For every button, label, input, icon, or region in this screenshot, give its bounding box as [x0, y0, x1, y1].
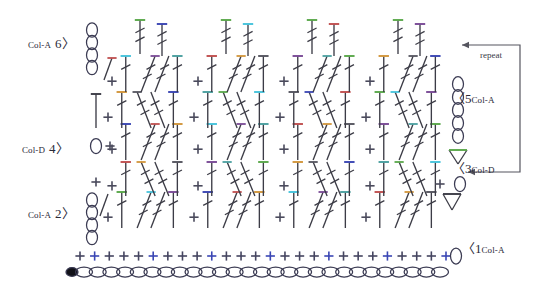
stitch-post — [203, 92, 213, 128]
stitch-lean — [327, 56, 341, 92]
stitch-row — [103, 92, 436, 128]
stitch-post — [430, 162, 440, 196]
chain-stitch — [171, 267, 188, 277]
stitch-post — [293, 162, 303, 196]
stitch-single-crochet — [163, 251, 172, 260]
stitch-post — [254, 192, 264, 228]
stitch-symbol-layer — [75, 20, 467, 264]
crochet-chart-root: Col-A 6〉 Col-D 4〉 Col-A 2〉 〈5Col-A 〈3Col… — [0, 0, 539, 284]
chain-stitch — [322, 267, 339, 277]
stitch-post — [254, 92, 264, 128]
stitch-lean — [327, 162, 341, 196]
stitch-single-crochet — [435, 179, 444, 188]
stitch-lean — [104, 58, 117, 80]
stitch-row — [107, 56, 440, 92]
stitch-single-crochet — [365, 145, 374, 154]
stitch-post — [379, 124, 389, 160]
stitch-row — [103, 192, 436, 228]
stitch-row-top-caps — [135, 20, 425, 56]
stitch-lean — [241, 162, 255, 196]
stitch-post — [379, 56, 389, 92]
stitch-lean — [151, 92, 165, 128]
stitch-post — [293, 124, 303, 160]
chain-stitch — [240, 267, 257, 277]
stitch-lean — [241, 124, 255, 160]
stitch-lean — [309, 162, 328, 196]
stitch-lean — [100, 194, 108, 216]
chain-stitch — [212, 267, 229, 277]
stitch-post — [344, 124, 354, 160]
stitch-single-crochet — [193, 181, 202, 190]
stitch-single-crochet — [279, 145, 288, 154]
stitch-single-crochet — [207, 251, 216, 260]
stitch-single-crochet — [427, 251, 436, 260]
chain-stitch — [336, 267, 353, 277]
row-label-1: 〈1Col-A — [462, 238, 505, 257]
stitch-lean — [133, 92, 152, 128]
chain-stitch — [89, 267, 106, 277]
row-label-1-chevron: 〈 — [462, 241, 475, 256]
stitch-single-crochet — [279, 181, 288, 190]
stitch-single-crochet — [251, 251, 260, 260]
stitch-lean — [413, 56, 427, 92]
stitch-post — [157, 24, 167, 56]
stitch-single-crochet — [339, 251, 348, 260]
stitch-single-crochet — [397, 251, 406, 260]
stitch-lean — [237, 92, 251, 128]
stitch-post — [289, 92, 299, 128]
chain-stitch — [185, 267, 202, 277]
stitch-lean — [155, 162, 169, 196]
stitch-lean — [241, 56, 255, 92]
stitch-row — [107, 124, 440, 160]
stitch-single-crochet — [189, 113, 198, 122]
row-label-6-chevron: 〉 — [62, 36, 75, 51]
stitch-single-crochet — [354, 251, 363, 260]
chain-stitch — [377, 267, 394, 277]
stitch-post — [168, 92, 178, 128]
stitch-single-crochet — [412, 251, 421, 260]
row-label-2-chevron: 〉 — [62, 206, 75, 221]
stitch-lean — [413, 162, 427, 196]
stitch-lean — [237, 192, 251, 228]
stitch-post — [207, 162, 217, 196]
stitch-lean — [323, 92, 337, 128]
stitch-post — [426, 92, 436, 128]
chain-stitch — [103, 267, 120, 277]
chain-stitch — [254, 267, 271, 277]
stitch-post — [344, 56, 354, 92]
stitch-single-crochet — [107, 77, 116, 86]
stitch-post — [258, 162, 268, 196]
stitch-lean — [413, 124, 427, 160]
chain-stitch — [363, 267, 380, 277]
stitch-post — [117, 92, 127, 128]
chain-stitch — [308, 267, 325, 277]
stitch-post — [121, 162, 131, 196]
row-label-2-color: Col-A — [28, 210, 51, 220]
chain-stitch — [199, 267, 216, 277]
stitch-single-crochet — [365, 77, 374, 86]
stitch-post — [258, 56, 268, 92]
stitch-single-crochet — [222, 251, 231, 260]
row-label-5: 〈5Col-A — [452, 88, 495, 107]
repeat-label: repeat — [480, 50, 502, 60]
stitch-single-crochet — [90, 251, 99, 260]
stitch-single-crochet — [105, 251, 114, 260]
stitch-lean — [305, 92, 324, 128]
chain-stitch — [226, 267, 243, 277]
stitch-single-crochet — [266, 251, 275, 260]
stitch-post — [207, 124, 217, 160]
stitch-single-crochet — [279, 77, 288, 86]
stitch-single-crochet — [280, 251, 289, 260]
stitch-post — [430, 124, 440, 160]
row-label-5-chevron: 〈 — [452, 91, 465, 106]
stitch-single-crochet — [178, 251, 187, 260]
chain-stitch — [281, 267, 298, 277]
stitch-lean — [391, 92, 410, 128]
stitch-single-crochet — [368, 251, 377, 260]
stitch-single-crochet — [193, 77, 202, 86]
chain-stitch — [267, 267, 284, 277]
stitch-single-crochet — [193, 145, 202, 154]
stitch-lean — [409, 192, 423, 228]
stitch-post — [172, 56, 182, 92]
stitch-post — [340, 192, 350, 228]
